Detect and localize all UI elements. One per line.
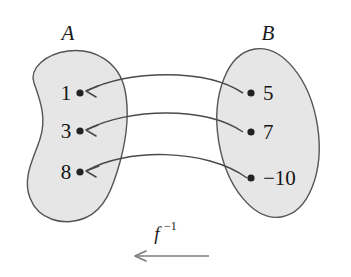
label-b-7: 7 xyxy=(263,120,274,144)
dot-b-neg10 xyxy=(247,174,254,181)
mapping-diagram: A B 1 3 8 5 7 −10 f −1 xyxy=(0,0,351,277)
dot-a-8 xyxy=(76,168,83,175)
label-b-5: 5 xyxy=(263,81,274,105)
label-a-3: 3 xyxy=(61,119,72,143)
direction-arrow xyxy=(135,251,209,261)
set-a-blob xyxy=(27,51,127,222)
function-label-base: f xyxy=(154,223,162,244)
function-label-exponent: −1 xyxy=(164,219,177,233)
dot-b-5 xyxy=(247,89,254,96)
set-a-label: A xyxy=(60,21,75,45)
label-a-8: 8 xyxy=(61,160,72,184)
set-b-label: B xyxy=(262,21,275,45)
dot-b-7 xyxy=(247,128,254,135)
dot-a-3 xyxy=(76,127,83,134)
label-a-1: 1 xyxy=(61,81,72,105)
label-b-neg10: −10 xyxy=(263,166,296,190)
dot-a-1 xyxy=(76,89,83,96)
